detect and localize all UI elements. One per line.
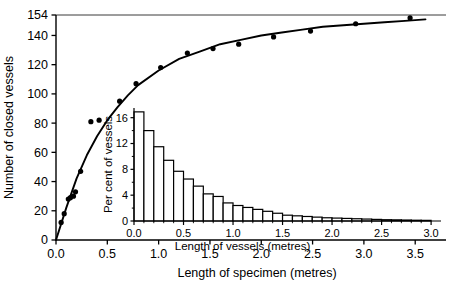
main-data-point [59,220,64,225]
main-y-tick-label: 140 [27,29,48,43]
inset-y-axis-title: Per cent of vessels [102,116,114,213]
inset-histogram-bar [174,171,184,221]
main-y-tick-label: 20 [34,204,48,218]
main-x-tick-label: 0.5 [99,247,116,261]
main-data-point [97,118,102,123]
figure-container: 020406080100120140154 0.00.51.01.52.02.5… [0,0,452,289]
main-x-tick-label: 3.0 [355,247,372,261]
inset-y-tick-labels: 0481216 [116,112,128,227]
inset-histogram-bar [164,160,174,221]
inset-plot: 0481216 0.00.51.01.52.02.53.0 Length of … [102,108,441,252]
main-y-axis-title: Number of closed vessels [2,56,16,199]
main-x-axis-title: Length of specimen (metres) [177,266,336,280]
inset-x-tick-label: 2.5 [374,227,389,239]
inset-histogram-bar [154,147,164,221]
main-data-point [210,46,215,51]
main-y-tick-label: 100 [27,87,48,101]
inset-y-tick-label: 12 [116,137,128,149]
inset-y-tick-label: 4 [122,189,128,201]
inset-histogram-bar [292,216,302,221]
inset-x-tick-label: 0.0 [126,227,141,239]
main-data-point [236,42,241,47]
main-data-point [62,211,67,216]
main-data-point [308,28,313,33]
main-x-tick-label: 0.0 [47,247,64,261]
inset-histogram-bar [283,215,293,221]
main-x-tick-label: 1.0 [150,247,167,261]
inset-y-tick-label: 8 [122,163,128,175]
inset-x-tick-label: 2.0 [324,227,339,239]
main-y-tick-label: 60 [34,146,48,160]
scientific-figure: 020406080100120140154 0.00.51.01.52.02.5… [0,0,452,289]
main-data-point [407,15,412,20]
inset-x-tick-label: 1.5 [275,227,290,239]
inset-histogram-bar [253,209,263,221]
main-data-point [73,189,78,194]
inset-histogram-bar [193,186,203,221]
inset-x-tick-label: 3.0 [423,227,438,239]
inset-x-tick-label: 0.5 [176,227,191,239]
main-data-point [88,119,93,124]
inset-histogram-bar [302,216,312,221]
inset-histogram-bar [223,203,233,221]
inset-histogram-bars [134,112,431,221]
inset-histogram-bar [184,179,194,221]
main-data-point [353,21,358,26]
main-y-tick-label: 120 [27,58,48,72]
inset-x-axis-title: Length of vessels (metres) [175,240,311,252]
main-y-tick-label: 154 [27,8,48,22]
inset-y-tick-label: 16 [116,112,128,124]
inset-x-tick-labels: 0.00.51.01.52.02.53.0 [126,227,438,239]
main-data-point [133,81,138,86]
main-y-tick-label: 40 [34,175,48,189]
main-data-point [158,65,163,70]
inset-histogram-bar [213,196,223,221]
main-y-tick-label: 80 [34,117,48,131]
inset-x-tick-label: 1.0 [225,227,240,239]
inset-histogram-bar [273,213,283,221]
main-data-point [78,169,83,174]
inset-y-tick-label: 0 [122,215,128,227]
main-data-point [271,34,276,39]
inset-histogram-bar [233,206,243,222]
inset-histogram-bar [263,211,273,221]
main-data-point [117,99,122,104]
main-y-tick-labels: 020406080100120140154 [27,8,48,247]
inset-histogram-bar [144,131,154,221]
inset-histogram-bar [203,194,213,221]
main-y-tick-label: 0 [41,233,48,247]
main-x-tick-label: 3.5 [407,247,424,261]
main-data-point [185,50,190,55]
inset-histogram-bar [243,207,253,221]
inset-histogram-bar [134,112,144,221]
